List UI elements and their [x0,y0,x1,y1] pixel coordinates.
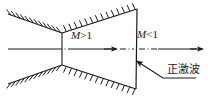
normal-shock-line [136,9,137,89]
diagram-canvas [0,0,213,97]
hatch-ticks-upper-right [64,3,136,31]
hatch-ticks-lower-right [64,66,136,94]
hatch-ticks-lower-left [7,66,61,89]
nozzle-shock-diagram: M>1 M<1 正激波 [0,0,213,97]
shock-leader-arrow [137,61,197,78]
hatch-ticks-upper-left [7,10,61,33]
hatched-wall-upper [7,3,137,33]
hatched-wall-lower [7,65,136,95]
